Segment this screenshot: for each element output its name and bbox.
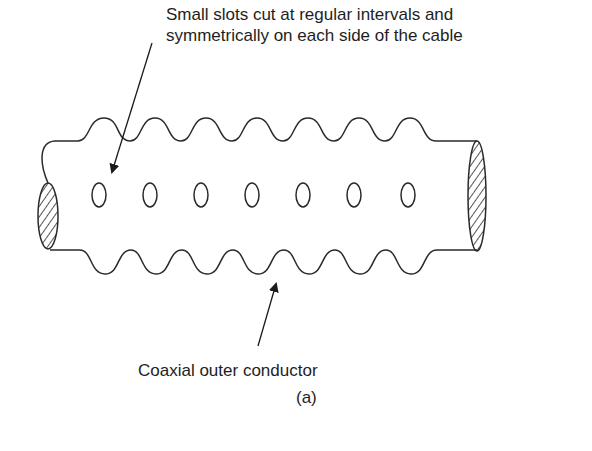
left-cut-end-hatched (38, 183, 58, 249)
conductor-annotation: Coaxial outer conductor (138, 360, 318, 381)
figure-caption: (a) (296, 387, 317, 408)
slot (401, 183, 415, 207)
coaxial-cable-diagram (0, 0, 592, 451)
slot (92, 183, 106, 207)
slots (92, 183, 415, 207)
slots-annotation-line2: symmetrically on each side of the cable (166, 25, 463, 46)
slot (245, 183, 259, 207)
slots-annotation-line1: Small slots cut at regular intervals and (166, 4, 463, 25)
slot (143, 183, 157, 207)
slot (194, 183, 208, 207)
conductor-pointer-arrow (258, 284, 276, 346)
slot (347, 183, 361, 207)
cable-top-edge (42, 118, 477, 183)
cable-bottom-edge (50, 250, 477, 274)
slots-annotation: Small slots cut at regular intervals and… (166, 4, 463, 46)
right-cut-end-hatched (468, 141, 486, 251)
slot-pointer-arrow (112, 43, 152, 172)
slot (296, 183, 310, 207)
